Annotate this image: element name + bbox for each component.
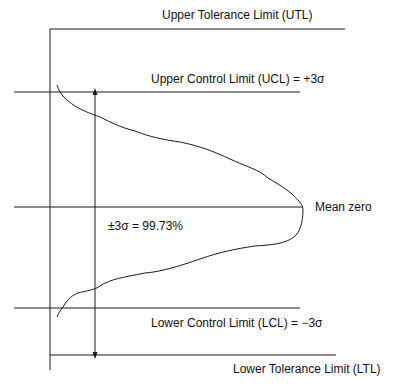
lcl-label: Lower Control Limit (LCL) = −3σ (151, 316, 322, 330)
utl-label: Upper Tolerance Limit (UTL) (162, 8, 313, 22)
ltl-label: Lower Tolerance Limit (LTL) (233, 362, 381, 376)
mean-label: Mean zero (315, 200, 372, 214)
distribution-curve (57, 85, 303, 317)
ucl-label: Upper Control Limit (UCL) = +3σ (151, 72, 324, 86)
sigma-annotation: ±3σ = 99.73% (108, 219, 183, 233)
